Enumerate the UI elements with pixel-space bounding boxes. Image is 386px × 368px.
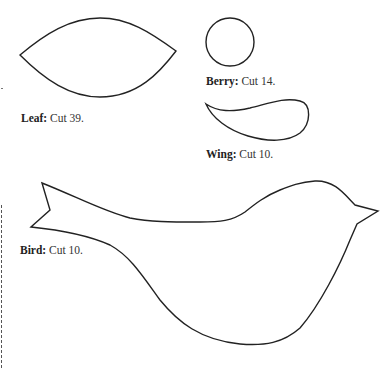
wing-label-name: Wing: [206, 148, 236, 160]
berry-label-instruction: Cut 14. [241, 75, 275, 87]
leaf-label-instruction: Cut 39. [50, 112, 84, 124]
pattern-shapes [0, 0, 386, 368]
leaf-outline-shape [20, 18, 176, 97]
wing-outline-shape [206, 100, 309, 140]
leaf-label-name: Leaf: [21, 112, 47, 124]
bird-label-instruction: Cut 10. [49, 244, 83, 256]
stray-mark [1, 88, 3, 89]
wing-label-instruction: Cut 10. [239, 148, 273, 160]
pattern-template-sheet: Leaf: Cut 39. Berry: Cut 14. Wing: Cut 1… [0, 0, 386, 368]
leaf-label: Leaf: Cut 39. [21, 111, 84, 125]
berry-outline-shape [206, 18, 254, 66]
dashed-fold-line [1, 205, 2, 368]
berry-label: Berry: Cut 14. [206, 74, 275, 88]
bird-label-name: Bird: [20, 244, 46, 256]
bird-outline-shape [31, 181, 378, 345]
berry-label-name: Berry: [206, 75, 239, 87]
wing-label: Wing: Cut 10. [206, 147, 273, 161]
bird-label: Bird: Cut 10. [20, 243, 83, 257]
